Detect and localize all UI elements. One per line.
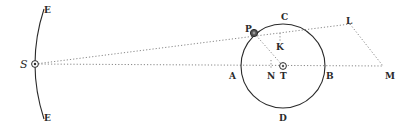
label-E-top: E: [44, 5, 51, 15]
dotted-lines: [35, 24, 383, 68]
label-L: L: [346, 16, 353, 26]
label-E-bottom: E: [44, 113, 51, 123]
label-P: P: [245, 24, 252, 34]
sun-S-icon: [32, 61, 39, 68]
label-B: B: [326, 71, 334, 81]
label-T: T: [280, 71, 287, 81]
label-C: C: [281, 12, 288, 22]
line-S-M: [35, 64, 383, 66]
label-A: A: [228, 71, 237, 81]
line-S-L: [35, 24, 350, 64]
label-S: S: [20, 58, 28, 71]
orbit-diagram: E E S P C K L A N T B M D: [0, 0, 417, 129]
label-D: D: [279, 113, 287, 123]
body-T-icon: [280, 63, 287, 70]
label-N: N: [267, 71, 275, 81]
label-M: M: [385, 71, 395, 81]
label-K: K: [276, 42, 285, 52]
line-L-M: [350, 24, 383, 66]
